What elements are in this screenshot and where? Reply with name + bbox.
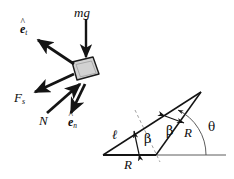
- friction-subscript: s: [22, 97, 25, 106]
- weight-label: mg: [74, 6, 90, 19]
- unit-normal-label: ^ e n: [68, 116, 77, 128]
- side-ell-label: ℓ: [112, 128, 117, 141]
- base-R-label: R: [124, 158, 132, 171]
- normal-force-label: N: [39, 114, 48, 127]
- friction-label: Fs: [14, 91, 25, 104]
- unit-tangent-label: ^ e t: [20, 23, 27, 35]
- figure-canvas: [0, 0, 234, 179]
- unit-tangent-hat-icon: ^: [20, 17, 25, 27]
- physics-figure: mg ^ e t Fs N ^ e n ℓ R β β R θ: [0, 0, 234, 179]
- beta-upper-label: β: [166, 124, 174, 137]
- block-shape: [72, 57, 99, 80]
- theta-label: θ: [208, 121, 215, 133]
- unit-tangent-vector-arrow: [38, 40, 74, 64]
- beta-lower-angle-marker: [134, 131, 139, 154]
- unit-normal-subscript: n: [73, 121, 77, 130]
- slant-side-R-line: [156, 92, 201, 155]
- friction-base: F: [14, 90, 22, 105]
- unit-normal-hat-icon: ^: [68, 110, 73, 120]
- theta-angle-arc: [178, 110, 206, 155]
- normal-force-vector-arrow: [47, 84, 80, 113]
- beta-lower-label: β: [144, 132, 152, 145]
- friction-vector-arrow: [35, 74, 74, 92]
- slant-R-label: R: [184, 126, 192, 139]
